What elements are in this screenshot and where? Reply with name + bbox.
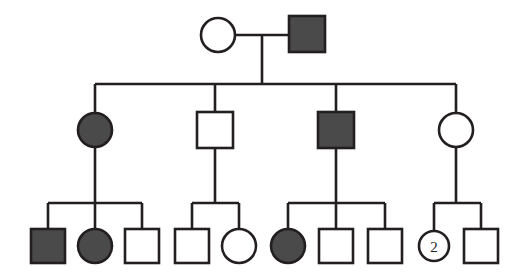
sibship-group-1: [31, 203, 159, 263]
individual-II-4-female-unaffected: [439, 113, 473, 147]
generation-3-group: 2: [31, 203, 498, 263]
individual-III-1-male-affected: [31, 229, 65, 263]
individual-II-1-female-affected: [78, 113, 112, 147]
individual-III-10-male-unaffected: [464, 229, 498, 263]
individual-III-8-male-unaffected: [368, 229, 402, 263]
individual-II-3-male-affected: [318, 112, 354, 148]
individual-I-2-male-affected: [289, 16, 325, 52]
individual-III-2-female-affected: [78, 229, 112, 263]
individual-III-7-male-unaffected: [319, 229, 353, 263]
individual-I-1-female-unaffected: [201, 18, 235, 52]
sibship-group-4: 2: [419, 203, 498, 263]
individual-III-6-female-affected: [271, 229, 305, 263]
pedigree-chart: 2: [0, 0, 524, 276]
pedigree-canvas: 2: [0, 0, 524, 276]
individual-III-9-count-label: 2: [430, 239, 438, 255]
sibship-group-3: [271, 203, 402, 263]
individual-III-4-male-unaffected: [175, 229, 209, 263]
individual-III-5-female-unaffected: [222, 229, 256, 263]
individual-III-3-male-unaffected: [125, 229, 159, 263]
generation-2-group: [78, 84, 473, 203]
generation-1-group: [201, 16, 325, 84]
individual-II-2-male-unaffected: [197, 112, 233, 148]
sibship-group-2: [175, 203, 256, 263]
